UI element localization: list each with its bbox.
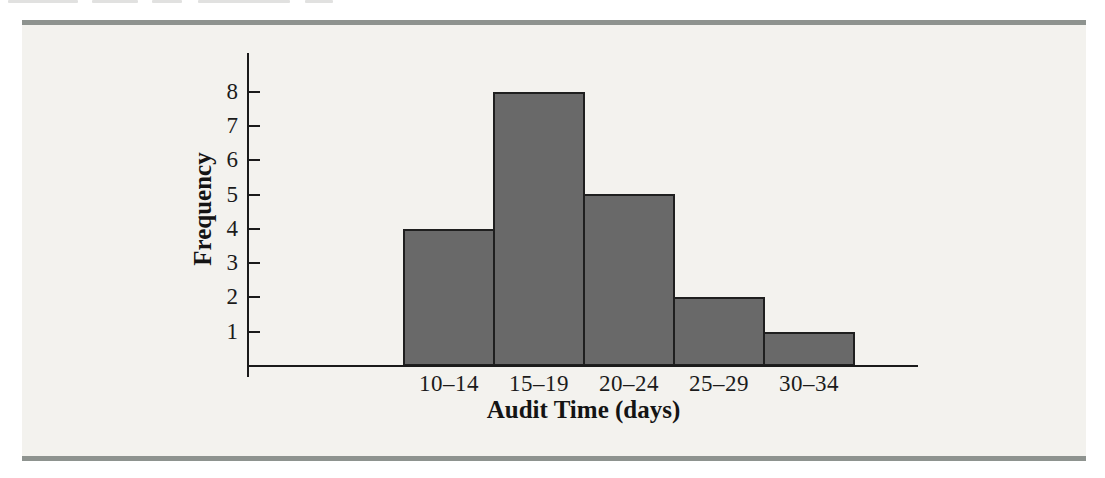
y-tick-mark-1 bbox=[249, 331, 260, 333]
y-tick-mark-8 bbox=[249, 91, 260, 93]
y-tick-label-1: 1 bbox=[183, 318, 238, 346]
panel-bottom-rule bbox=[22, 456, 1086, 461]
y-tick-mark-2 bbox=[249, 296, 260, 298]
bar-25–29 bbox=[673, 297, 765, 366]
y-tick-mark-5 bbox=[249, 194, 260, 196]
bar-10–14 bbox=[403, 229, 495, 366]
audit-time-histogram: 12345678 10–1415–1920–2425–2930–34 Audit… bbox=[0, 0, 1105, 478]
y-axis bbox=[247, 53, 249, 377]
y-tick-label-8: 8 bbox=[183, 78, 238, 106]
y-tick-mark-4 bbox=[249, 228, 260, 230]
y-tick-label-2: 2 bbox=[183, 283, 238, 311]
y-axis-title: Frequency bbox=[189, 152, 217, 265]
scanned-textbook-figure: 12345678 10–1415–1920–2425–2930–34 Audit… bbox=[0, 0, 1105, 478]
x-axis bbox=[247, 365, 918, 367]
bar-20–24 bbox=[583, 194, 675, 366]
x-axis-title: Audit Time (days) bbox=[248, 395, 919, 425]
y-tick-mark-6 bbox=[249, 159, 260, 161]
y-tick-mark-3 bbox=[249, 262, 260, 264]
y-tick-mark-7 bbox=[249, 125, 260, 127]
y-tick-label-7: 7 bbox=[183, 112, 238, 140]
x-tick-label-30–34: 30–34 bbox=[754, 371, 864, 397]
bar-15–19 bbox=[493, 92, 585, 366]
bar-30–34 bbox=[763, 332, 855, 366]
